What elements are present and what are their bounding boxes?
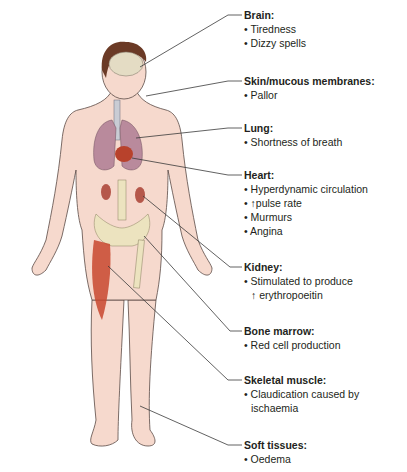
- callout-title: Soft tissues:: [244, 438, 307, 452]
- callout-item: ↑ erythropoeitin: [244, 288, 353, 302]
- callout-item: • Shortness of breath: [244, 135, 342, 149]
- callout-skin: Skin/mucous membranes: • Pallor: [244, 74, 375, 102]
- callout-title: Heart:: [244, 168, 368, 182]
- callout-item: • Red cell production: [244, 338, 340, 352]
- callout-item: • Dizzy spells: [244, 36, 306, 50]
- callout-skeletal-muscle: Skeletal muscle: • Claudication caused b…: [244, 373, 359, 415]
- callout-item: • Stimulated to produce: [244, 274, 353, 288]
- callout-lung: Lung: • Shortness of breath: [244, 121, 342, 149]
- callout-item: • Oedema: [244, 452, 307, 466]
- callout-item: • Angina: [244, 224, 368, 238]
- heart: [115, 146, 133, 162]
- callout-title: Lung:: [244, 121, 342, 135]
- kidney-left: [101, 184, 111, 200]
- callout-brain: Brain: • Tiredness • Dizzy spells: [244, 8, 306, 50]
- callout-item: • Pallor: [244, 88, 375, 102]
- callout-item: ischaemia: [244, 401, 359, 415]
- callout-item: • Hyperdynamic circulation: [244, 182, 368, 196]
- callout-title: Bone marrow:: [244, 324, 340, 338]
- callout-title: Brain:: [244, 8, 306, 22]
- callout-heart: Heart: • Hyperdynamic circulation • ↑pul…: [244, 168, 368, 238]
- callout-bone-marrow: Bone marrow: • Red cell production: [244, 324, 340, 352]
- brain: [109, 52, 143, 76]
- callout-title: Kidney:: [244, 260, 353, 274]
- callout-item: • Tiredness: [244, 22, 306, 36]
- callout-item: • Murmurs: [244, 210, 368, 224]
- callout-item: • ↑pulse rate: [244, 196, 368, 210]
- callout-item: • Claudication caused by: [244, 387, 359, 401]
- callout-kidney: Kidney: • Stimulated to produce ↑ erythr…: [244, 260, 353, 302]
- kidney-right: [135, 187, 145, 203]
- callout-title: Skin/mucous membranes:: [244, 74, 375, 88]
- callout-title: Skeletal muscle:: [244, 373, 359, 387]
- callout-soft-tissues: Soft tissues: • Oedema: [244, 438, 307, 466]
- spine: [118, 180, 126, 220]
